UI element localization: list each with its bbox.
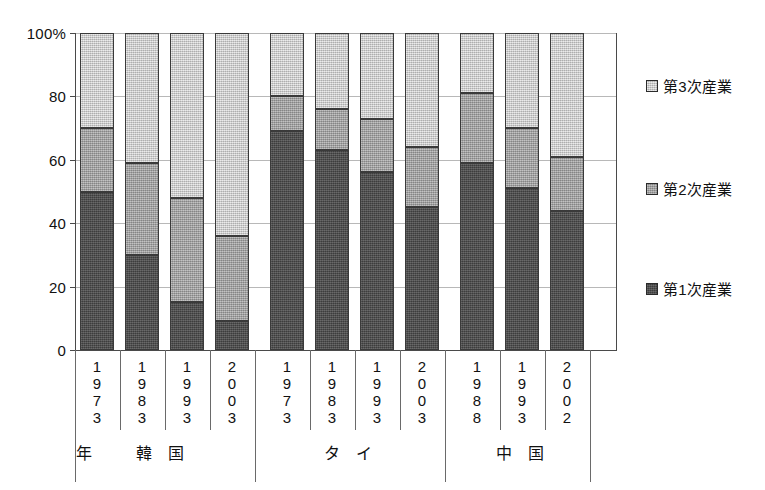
legend-label: 第2次産業	[663, 178, 732, 199]
plot-right-border	[616, 33, 617, 351]
category-separator	[210, 350, 211, 430]
x-tick-digit: 3	[270, 409, 304, 426]
x-tick-label: 1973	[270, 358, 304, 426]
x-tick-digit: 8	[460, 392, 494, 409]
x-tick-digit: 1	[125, 358, 159, 375]
bar-1973	[80, 33, 114, 350]
x-tick-digit: 2	[405, 358, 439, 375]
x-tick-digit: 9	[360, 392, 394, 409]
legend-item-secondary: 第2次産業	[646, 178, 732, 199]
y-tick-mark	[70, 223, 75, 224]
x-tick-digit: 1	[80, 358, 114, 375]
x-tick-digit: 1	[360, 358, 394, 375]
bar-1983	[315, 33, 349, 350]
bar-segment-第1次産業	[405, 207, 439, 350]
x-tick-digit: 3	[80, 409, 114, 426]
x-tick-digit: 1	[460, 358, 494, 375]
bar-segment-第2次産業	[80, 128, 114, 191]
x-tick-digit: 0	[550, 375, 584, 392]
stacked-bar-chart: 020406080100% 19731983199320031973198319…	[0, 0, 765, 490]
bar-1973	[270, 33, 304, 350]
x-tick-digit: 1	[505, 358, 539, 375]
legend: 第3次産業第2次産業第1次産業	[634, 0, 765, 490]
bar-1993	[170, 33, 204, 350]
bar-segment-第3次産業	[360, 33, 394, 119]
x-tick-digit: 3	[215, 409, 249, 426]
category-separator	[120, 350, 121, 430]
y-tick-label: 60	[49, 151, 66, 168]
x-tick-digit: 8	[460, 409, 494, 426]
x-axis-line	[75, 350, 617, 351]
bar-segment-第1次産業	[460, 163, 494, 350]
x-tick-digit: 2	[550, 409, 584, 426]
category-separator	[165, 350, 166, 430]
bar-segment-第3次産業	[215, 33, 249, 236]
x-tick-digit: 9	[360, 375, 394, 392]
category-separator	[500, 350, 501, 430]
x-tick-digit: 9	[170, 375, 204, 392]
bar-segment-第1次産業	[360, 172, 394, 350]
x-tick-digit: 8	[125, 392, 159, 409]
x-tick-digit: 0	[550, 392, 584, 409]
x-tick-label: 2003	[405, 358, 439, 426]
bar-segment-第3次産業	[270, 33, 304, 96]
bar-segment-第2次産業	[215, 236, 249, 322]
x-tick-digit: 0	[405, 392, 439, 409]
bar-segment-第2次産業	[270, 96, 304, 131]
x-tick-digit: 8	[315, 392, 349, 409]
x-tick-digit: 9	[270, 375, 304, 392]
plot-area	[76, 33, 616, 350]
x-tick-digit: 1	[170, 358, 204, 375]
x-tick-digit: 3	[315, 409, 349, 426]
x-tick-digit: 0	[215, 392, 249, 409]
legend-swatch-icon	[646, 80, 658, 92]
y-tick-label: 20	[49, 278, 66, 295]
group-label: 中 国	[496, 440, 550, 464]
bar-segment-第1次産業	[550, 211, 584, 350]
x-tick-digit: 3	[360, 409, 394, 426]
legend-swatch-icon	[646, 283, 658, 295]
bar-segment-第3次産業	[505, 33, 539, 128]
bar-segment-第3次産業	[460, 33, 494, 93]
bar-segment-第2次産業	[460, 93, 494, 163]
bar-segment-第2次産業	[315, 109, 349, 150]
category-separator	[355, 350, 356, 430]
bar-segment-第1次産業	[125, 255, 159, 350]
x-tick-digit: 9	[315, 375, 349, 392]
bar-segment-第2次産業	[550, 157, 584, 211]
x-axis-labels: 1973198319932003197319831993200319881993…	[76, 352, 616, 442]
group-labels: 年韓 国タ イ中 国	[76, 440, 616, 484]
x-tick-digit: 1	[270, 358, 304, 375]
bar-segment-第1次産業	[505, 188, 539, 350]
bar-segment-第3次産業	[125, 33, 159, 163]
legend-label: 第3次産業	[663, 75, 732, 96]
y-tick-mark	[70, 96, 75, 97]
legend-item-tertiary: 第3次産業	[646, 75, 732, 96]
bar-2003	[405, 33, 439, 350]
x-tick-label: 1993	[170, 358, 204, 426]
x-tick-digit: 9	[170, 392, 204, 409]
x-tick-digit: 9	[80, 375, 114, 392]
bar-segment-第3次産業	[550, 33, 584, 157]
category-separator	[545, 350, 546, 430]
x-tick-label: 1983	[315, 358, 349, 426]
bar-segment-第1次産業	[170, 302, 204, 350]
x-tick-digit: 1	[315, 358, 349, 375]
x-tick-digit: 9	[505, 375, 539, 392]
x-tick-digit: 2	[550, 358, 584, 375]
bar-1988	[460, 33, 494, 350]
category-separator	[400, 350, 401, 430]
x-tick-label: 1993	[360, 358, 394, 426]
x-tick-digit: 9	[125, 375, 159, 392]
bar-segment-第3次産業	[80, 33, 114, 128]
legend-swatch-icon	[646, 183, 658, 195]
bar-segment-第2次産業	[405, 147, 439, 207]
x-tick-label: 1973	[80, 358, 114, 426]
bar-segment-第1次産業	[215, 321, 249, 350]
group-label: 年	[76, 440, 98, 464]
bar-2003	[215, 33, 249, 350]
y-tick-label: 0	[57, 342, 66, 359]
y-tick-label: 40	[49, 215, 66, 232]
x-tick-digit: 3	[505, 409, 539, 426]
x-tick-label: 1988	[460, 358, 494, 426]
